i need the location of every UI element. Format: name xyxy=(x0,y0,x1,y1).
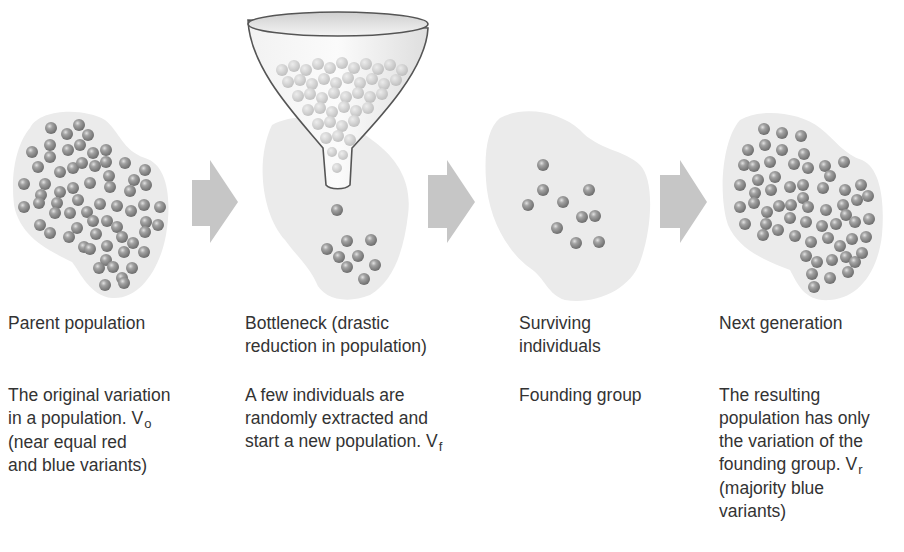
stage-next-generation: Next generation The resulting population… xyxy=(719,312,904,523)
stage-bottleneck: Bottleneck (drastic reduction in populat… xyxy=(245,312,470,454)
stage-description: The resulting population has only the va… xyxy=(719,384,904,523)
bottleneck-illustration xyxy=(0,0,904,310)
stage-description: A few individuals are randomly extracted… xyxy=(245,384,470,454)
stage-title: Parent population xyxy=(8,312,208,358)
surviving-individuals-blob xyxy=(486,111,651,301)
arrow-icon xyxy=(660,160,707,243)
stage-title: Next generation xyxy=(719,312,904,358)
stage-surviving-individuals: Surviving individuals Founding group xyxy=(519,312,699,407)
stage-description: The original variation in a population. … xyxy=(8,384,208,477)
arrow-icon xyxy=(192,160,238,243)
stage-parent-population: Parent population The original variation… xyxy=(8,312,208,477)
stage-title: Surviving individuals xyxy=(519,312,699,358)
arrow-icon xyxy=(428,160,475,243)
stage-title: Bottleneck (drastic reduction in populat… xyxy=(245,312,470,358)
stage-description: Founding group xyxy=(519,384,699,407)
